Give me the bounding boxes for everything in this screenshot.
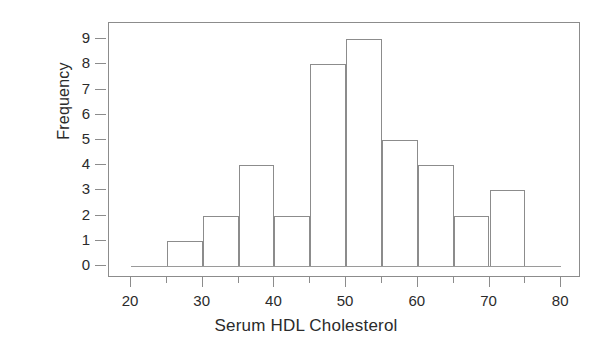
- x-axis-tick: [453, 277, 454, 283]
- histogram-figure: Frequency 0123456789 20304050607080 Seru…: [0, 0, 612, 352]
- y-axis-tick: [95, 265, 106, 266]
- x-axis-tick-label: 40: [253, 292, 293, 309]
- x-axis-tick-label: 60: [397, 292, 437, 309]
- x-axis-tick: [560, 277, 561, 287]
- y-axis-tick: [95, 38, 106, 39]
- x-axis-title: Serum HDL Cholesterol: [0, 316, 612, 336]
- histogram-bar: [346, 39, 382, 266]
- y-axis-tick-label: 2: [70, 207, 90, 222]
- histogram-bar: [239, 165, 275, 266]
- x-axis-tick: [130, 277, 131, 287]
- y-axis-tick: [95, 139, 106, 140]
- x-axis-tick-label: 70: [469, 292, 509, 309]
- y-axis-tick-label: 1: [70, 232, 90, 247]
- histogram-bar: [274, 216, 310, 266]
- y-axis-tick: [95, 164, 106, 165]
- histogram-bar: [454, 216, 490, 266]
- x-axis-tick-label: 20: [110, 292, 150, 309]
- x-axis-tick: [309, 277, 310, 283]
- y-axis-tick: [95, 189, 106, 190]
- x-axis-tick: [524, 277, 525, 283]
- histogram-bar: [382, 140, 418, 266]
- x-axis-tick-label: 50: [325, 292, 365, 309]
- y-axis-tick-label: 8: [70, 55, 90, 70]
- x-axis-tick-label: 80: [540, 292, 580, 309]
- y-axis-tick: [95, 215, 106, 216]
- x-axis-tick-label: 30: [182, 292, 222, 309]
- y-axis-tick: [95, 240, 106, 241]
- y-axis-tick-label: 0: [70, 257, 90, 272]
- y-axis-tick-label: 6: [70, 106, 90, 121]
- x-axis-tick: [166, 277, 167, 283]
- y-axis-tick: [95, 63, 106, 64]
- x-axis-tick: [381, 277, 382, 283]
- x-axis-tick: [238, 277, 239, 283]
- y-axis-tick-label: 5: [70, 131, 90, 146]
- histogram-bar: [167, 241, 203, 266]
- y-axis-tick-label: 3: [70, 181, 90, 196]
- y-axis-tick-label: 9: [70, 30, 90, 45]
- y-axis-tick-label: 4: [70, 156, 90, 171]
- histogram-bar: [490, 190, 526, 266]
- x-axis-tick: [417, 277, 418, 287]
- x-axis-tick: [202, 277, 203, 287]
- histogram-bar: [310, 64, 346, 266]
- x-axis-tick: [273, 277, 274, 287]
- histogram-bar: [203, 216, 239, 266]
- y-axis-tick: [95, 89, 106, 90]
- x-axis-tick: [345, 277, 346, 287]
- histogram-bar: [418, 165, 454, 266]
- y-axis-tick-label: 7: [70, 81, 90, 96]
- x-axis-tick: [489, 277, 490, 287]
- y-axis-tick: [95, 114, 106, 115]
- y-axis-title: Frequency: [55, 31, 73, 171]
- plot-area: [108, 22, 580, 277]
- baseline-rule: [131, 266, 561, 267]
